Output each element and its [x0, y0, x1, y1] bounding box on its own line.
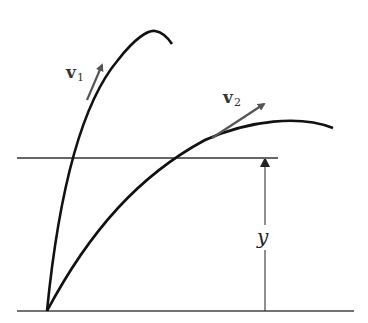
projectile-diagram: [0, 0, 368, 323]
velocity-arrow-1: [87, 65, 102, 100]
height-label: y: [257, 225, 268, 249]
v1-main: v: [66, 62, 76, 82]
v1-subscript: 1: [77, 71, 84, 84]
v1-label: v1: [66, 62, 84, 84]
velocity-arrow-2: [212, 104, 264, 138]
v2-label: v2: [223, 87, 241, 109]
v2-main: v: [223, 87, 233, 107]
v2-subscript: 2: [234, 96, 241, 109]
trajectory-2: [47, 121, 333, 311]
